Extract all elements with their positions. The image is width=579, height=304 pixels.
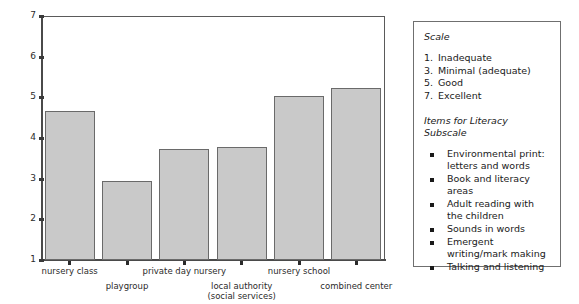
literacy-item: Book and literacy areas bbox=[424, 173, 552, 198]
scale-level-number: 7. bbox=[424, 90, 438, 103]
literacy-item-label: Environmental print: letters and words bbox=[447, 148, 545, 171]
y-axis-tick bbox=[39, 137, 44, 140]
x-axis-label-line: private day nursery bbox=[143, 266, 227, 276]
scale-level-number: 1. bbox=[424, 52, 438, 65]
x-axis-label: private day nursery bbox=[143, 266, 227, 276]
bar bbox=[217, 147, 267, 260]
x-axis-tick bbox=[126, 261, 129, 265]
scale-level-label: Inadequate bbox=[438, 52, 492, 65]
y-axis-tick-label: 6 bbox=[16, 52, 36, 61]
x-axis-tick bbox=[183, 261, 186, 265]
bar-chart: 7654321 nursery classplaygroupprivate da… bbox=[0, 0, 400, 304]
bar bbox=[331, 88, 381, 260]
x-axis-tick bbox=[298, 261, 301, 265]
y-axis-tick bbox=[39, 56, 44, 59]
y-axis-tick bbox=[39, 259, 44, 262]
x-axis-label-line: playgroup bbox=[106, 281, 149, 291]
x-axis-tick bbox=[355, 261, 358, 265]
x-axis-label: local authority(social services) bbox=[207, 281, 275, 301]
y-axis-tick-label: 4 bbox=[16, 133, 36, 142]
literacy-items-list: Environmental print: letters and wordsBo… bbox=[424, 148, 552, 273]
x-axis-label: combined center bbox=[320, 281, 392, 291]
bullet-square-icon bbox=[430, 241, 434, 245]
y-axis-tick-label: 2 bbox=[16, 214, 36, 223]
bullet-square-icon bbox=[430, 178, 434, 182]
bar bbox=[45, 111, 95, 260]
scale-level-item: 1.Inadequate bbox=[424, 52, 552, 65]
literacy-item: Environmental print: letters and words bbox=[424, 148, 552, 173]
x-axis-label-line: local authority bbox=[207, 281, 275, 291]
y-axis-tick-label: 1 bbox=[16, 255, 36, 264]
bar bbox=[102, 181, 152, 260]
literacy-item: Emergent writing/mark making bbox=[424, 236, 552, 261]
literacy-item-label: Sounds in words bbox=[447, 223, 525, 234]
scale-level-item: 7.Excellent bbox=[424, 90, 552, 103]
y-axis-tick bbox=[39, 96, 44, 99]
literacy-item-label: Talking and listening bbox=[447, 261, 544, 272]
bullet-square-icon bbox=[430, 266, 434, 270]
x-axis-label-line: combined center bbox=[320, 281, 392, 291]
scale-level-item: 3.Minimal (adequate) bbox=[424, 65, 552, 78]
y-axis-tick bbox=[39, 218, 44, 221]
x-axis-label: nursery school bbox=[268, 266, 330, 276]
y-axis-tick bbox=[39, 178, 44, 181]
y-axis-tick-label: 5 bbox=[16, 92, 36, 101]
bar bbox=[159, 149, 209, 260]
y-axis-tick-label: 7 bbox=[16, 11, 36, 20]
y-axis-tick-label: 3 bbox=[16, 174, 36, 183]
items-heading: Items for Literacy Subscale bbox=[424, 115, 552, 139]
scale-levels-list: 1.Inadequate3.Minimal (adequate)5.Good7.… bbox=[424, 52, 552, 102]
scale-heading: Scale bbox=[424, 31, 552, 43]
literacy-item: Adult reading with the children bbox=[424, 198, 552, 223]
x-axis-tick bbox=[240, 261, 243, 265]
scale-level-label: Minimal (adequate) bbox=[438, 65, 531, 78]
literacy-item-label: Book and literacy areas bbox=[447, 173, 530, 196]
bar bbox=[274, 96, 324, 260]
x-axis-label: nursery class bbox=[42, 266, 98, 276]
x-axis-label-line: nursery school bbox=[268, 266, 330, 276]
x-axis-label: playgroup bbox=[106, 281, 149, 291]
bullet-square-icon bbox=[430, 153, 434, 157]
literacy-item: Talking and listening bbox=[424, 261, 552, 273]
scale-level-label: Excellent bbox=[438, 90, 481, 103]
literacy-item: Sounds in words bbox=[424, 223, 552, 235]
x-axis-label-line: nursery class bbox=[42, 266, 98, 276]
x-axis-label-line: (social services) bbox=[207, 291, 275, 301]
literacy-item-label: Adult reading with the children bbox=[447, 198, 534, 221]
x-axis-tick bbox=[68, 261, 71, 265]
scale-level-number: 5. bbox=[424, 77, 438, 90]
scale-level-item: 5.Good bbox=[424, 77, 552, 90]
scale-legend-panel: Scale 1.Inadequate3.Minimal (adequate)5.… bbox=[413, 21, 561, 267]
y-axis-tick bbox=[39, 15, 44, 18]
scale-level-label: Good bbox=[438, 77, 463, 90]
literacy-item-label: Emergent writing/mark making bbox=[447, 236, 546, 259]
bullet-square-icon bbox=[430, 203, 434, 207]
scale-level-number: 3. bbox=[424, 65, 438, 78]
bullet-square-icon bbox=[430, 228, 434, 232]
